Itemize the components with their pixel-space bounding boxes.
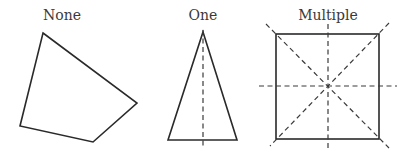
figure-multiple: Multiple: [259, 7, 397, 149]
symmetry-line-diagonal-2: [270, 23, 389, 146]
figure-label-one: One: [189, 7, 218, 23]
figure-one: One: [168, 7, 237, 149]
figure-label-multiple: Multiple: [298, 7, 358, 23]
symmetry-diagram: None One Multiple: [0, 0, 409, 160]
figure-none: None: [20, 7, 137, 142]
figure-label-none: None: [43, 7, 81, 23]
irregular-quadrilateral: [20, 33, 137, 142]
